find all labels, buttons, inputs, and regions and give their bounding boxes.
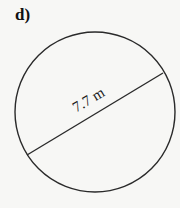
circle-figure: 7.7 m — [0, 0, 180, 208]
circle-outline — [15, 32, 175, 192]
